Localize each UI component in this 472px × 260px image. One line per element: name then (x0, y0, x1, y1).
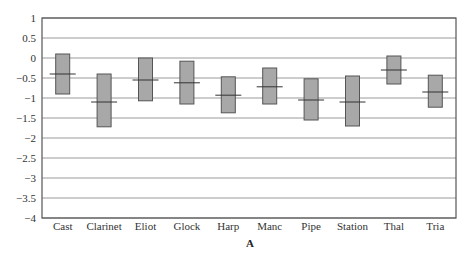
y-tick-label: 1 (31, 12, 37, 24)
y-tick-label: −1.5 (16, 112, 36, 124)
y-tick-label: 0.5 (22, 32, 36, 44)
x-tick-label: Pipe (301, 220, 321, 232)
y-tick-label: −2 (24, 132, 36, 144)
box-harp (215, 77, 241, 113)
box-manc (257, 68, 283, 104)
x-tick-label: Thal (384, 220, 404, 232)
boxes (50, 54, 449, 127)
x-tick-label: Tria (426, 220, 444, 232)
box-cast (50, 54, 76, 94)
box-range (428, 75, 442, 107)
box-range (139, 58, 153, 101)
y-tick-label: −3.5 (16, 192, 36, 204)
box-chart: 10.50−0.5−1−1.5−2−2.5−3−3.5−4 CastClarin… (0, 0, 472, 260)
y-tick-label: −3 (24, 172, 36, 184)
box-range (263, 68, 277, 104)
y-tick-label: −2.5 (16, 152, 36, 164)
y-tick-label: −4 (24, 212, 36, 224)
x-axis-title: A (246, 237, 254, 249)
box-clarinet (91, 74, 117, 127)
x-tick-label: Station (337, 220, 369, 232)
box-pipe (298, 79, 324, 120)
y-tick-label: −0.5 (16, 72, 36, 84)
box-range (346, 76, 360, 126)
y-tick-label: 0 (31, 52, 37, 64)
y-axis-ticks: 10.50−0.5−1−1.5−2−2.5−3−3.5−4 (16, 12, 36, 224)
y-tick-label: −1 (24, 92, 36, 104)
x-tick-label: Clarinet (86, 220, 121, 232)
box-range (304, 79, 318, 120)
x-axis-labels: CastClarinetEliotGlockHarpMancPipeStatio… (53, 220, 444, 232)
box-thal (381, 56, 407, 84)
x-tick-label: Harp (217, 220, 239, 232)
x-tick-label: Manc (257, 220, 282, 232)
box-eliot (133, 58, 159, 101)
box-range (97, 74, 111, 127)
x-tick-label: Cast (53, 220, 73, 232)
x-tick-label: Eliot (135, 220, 156, 232)
box-tria (422, 75, 448, 107)
x-tick-label: Glock (173, 220, 200, 232)
